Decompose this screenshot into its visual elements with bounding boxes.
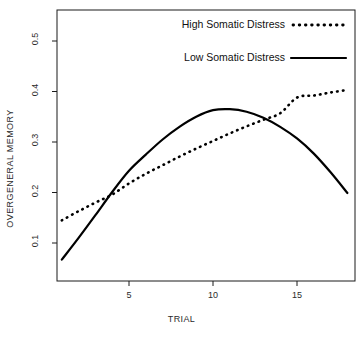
x-axis-title: TRIAL [0,314,363,324]
legend-label-low-somatic-distress: Low Somatic Distress [150,51,285,63]
x-tick-label-5: 5 [114,290,144,300]
y-axis-title: OVERGENERAL MEMORY [0,0,20,337]
legend-label-high-somatic-distress: High Somatic Distress [150,18,285,30]
chart-figure: OVERGENERAL MEMORY TRIAL 0.10.20.30.40.5… [0,0,363,337]
y-tick-label-0.3: 0.3 [30,128,40,152]
y-tick-label-0.5: 0.5 [30,27,40,51]
x-tick-label-15: 15 [282,290,312,300]
y-tick-label-0.1: 0.1 [30,229,40,253]
x-tick-label-10: 10 [198,290,228,300]
series-line-low-somatic-distress [62,109,348,260]
x-axis-ticks [129,281,297,286]
y-tick-label-0.4: 0.4 [30,78,40,102]
y-axis-ticks [52,41,57,243]
legend-line-samples [291,25,346,58]
y-tick-label-0.2: 0.2 [30,179,40,203]
data-series-group [62,90,348,260]
